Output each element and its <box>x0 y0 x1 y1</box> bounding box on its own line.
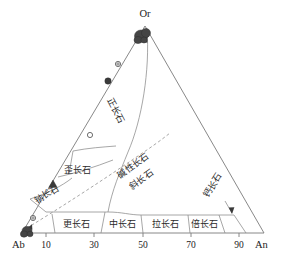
data-point-filled-edge <box>105 78 111 84</box>
field-label-oligoclase: 更长石 <box>63 218 90 229</box>
data-points-cluster-ab <box>20 226 33 237</box>
triangle-frame <box>22 26 264 233</box>
field-label-anorthite: 钙长石 <box>200 171 224 200</box>
field-label-anorthoclase: 歪长石 <box>64 164 91 175</box>
field-label-orthoclase: 正长石 <box>105 96 127 125</box>
apex-label-or: Or <box>139 8 151 19</box>
field-boundaries <box>30 29 246 233</box>
tick-label-10: 10 <box>41 240 51 250</box>
data-points-cluster-or <box>134 29 151 44</box>
ternary-plot-svg: Or Ab An 10 30 50 70 90 正长石 歪长石 钠长石 碱性长石… <box>0 0 281 261</box>
field-label-labradorite: 拉长石 <box>152 218 179 229</box>
data-point-open-lower <box>30 215 35 220</box>
bottom-axis-ticks <box>46 233 239 237</box>
tick-label-50: 50 <box>138 240 148 250</box>
data-point-open-upper <box>115 61 120 66</box>
apex-label-an: An <box>255 239 269 250</box>
data-point-open-mid <box>87 132 92 137</box>
field-label-bytownite: 倍长石 <box>191 218 218 229</box>
anorthite-leader-arrow <box>225 201 234 214</box>
tick-label-90: 90 <box>234 240 244 250</box>
tick-label-70: 70 <box>186 240 196 250</box>
tick-label-30: 30 <box>89 240 99 250</box>
data-point-triangle <box>49 180 57 187</box>
apex-label-ab: Ab <box>12 239 25 250</box>
field-label-andesine: 中长石 <box>109 218 136 229</box>
ternary-diagram: Or Ab An 10 30 50 70 90 正长石 歪长石 钠长石 碱性长石… <box>0 0 281 261</box>
